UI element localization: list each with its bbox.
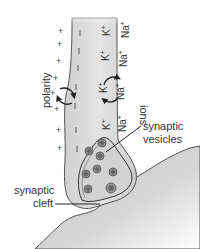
- svg-text:+: +: [58, 26, 63, 36]
- synaptic-vesicles-label-line1: synaptic: [143, 120, 184, 132]
- neuron-synapse-diagram: + + + + + + + + K+ K+ K+ K+ Na+ Na+ Na+ …: [0, 0, 200, 249]
- synaptic-cleft-label-line2: cleft: [33, 197, 53, 209]
- svg-text:Na+: Na+: [116, 115, 128, 132]
- svg-text:+: +: [57, 39, 62, 49]
- svg-text:Na+: Na+: [117, 50, 129, 67]
- svg-text:+: +: [53, 73, 58, 83]
- svg-text:+: +: [56, 125, 61, 135]
- svg-text:Na+: Na+: [119, 21, 131, 38]
- synaptic-cleft-label-line1: synaptic: [14, 184, 55, 196]
- polarity-label: polarity: [40, 72, 52, 108]
- svg-text:Na+: Na+: [114, 83, 126, 100]
- svg-text:+: +: [57, 143, 62, 153]
- synaptic-vesicles-label-line2: vesicles: [143, 133, 183, 145]
- svg-text:+: +: [54, 104, 59, 114]
- svg-text:+: +: [56, 56, 61, 66]
